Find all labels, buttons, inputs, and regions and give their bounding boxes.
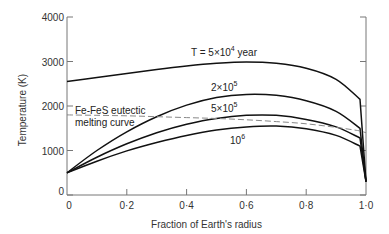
y-tick-label: 0 — [58, 186, 64, 197]
x-tick-label: 0·4 — [179, 200, 194, 211]
eutectic-label-line2: melting curve — [75, 117, 135, 128]
y-tick-label: 2000 — [42, 101, 65, 112]
x-tick-label: 0·2 — [120, 200, 135, 211]
y-tick-label: 3000 — [42, 57, 65, 68]
temperature-curve — [67, 126, 366, 182]
label-2e5: 2×105 — [211, 80, 238, 93]
label-1e6: 106 — [230, 133, 245, 146]
x-tick-label: 0 — [66, 200, 72, 211]
label-5e4-year: T = 5×104 year — [191, 45, 258, 58]
label-5e5: 5×105 — [211, 101, 238, 114]
eutectic-label-line1: Fe-FeS eutectic — [75, 105, 146, 116]
x-tick-label: 0·6 — [239, 200, 254, 211]
axes: 0100020003000400000·20·40·60·81·0Fractio… — [17, 12, 374, 230]
x-tick-label: 1·0 — [359, 200, 374, 211]
y-tick-label: 4000 — [42, 12, 65, 23]
temperature-profile-chart: 0100020003000400000·20·40·60·81·0Fractio… — [0, 0, 389, 234]
y-tick-label: 1000 — [42, 146, 65, 157]
y-axis-label: Temperature (K) — [17, 74, 28, 146]
x-axis-label: Fraction of Earth's radius — [151, 219, 262, 230]
x-tick-label: 0·8 — [299, 200, 314, 211]
